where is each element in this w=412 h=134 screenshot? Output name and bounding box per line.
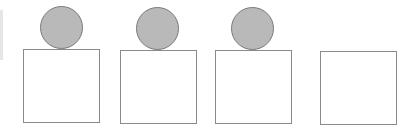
ball-1 [40,6,83,49]
ball-2 [136,7,179,50]
container-box-1 [23,49,100,123]
container-box-4 [320,51,397,125]
container-box-2 [120,50,197,124]
ball-3 [231,7,274,50]
left-edge-bar [0,10,3,60]
container-box-3 [215,50,292,124]
